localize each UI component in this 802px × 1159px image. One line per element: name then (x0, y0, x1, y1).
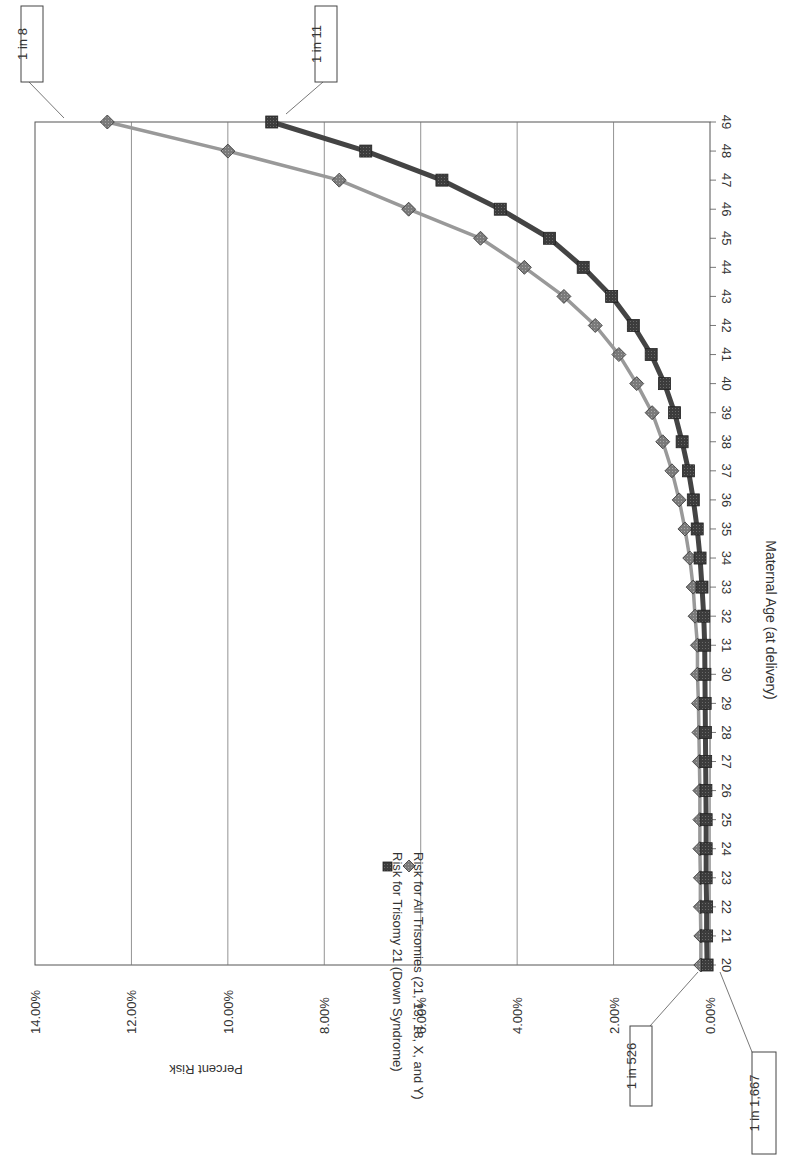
y-tick-label: 10.00% (221, 989, 236, 1034)
y-tick-label: 2.00% (607, 997, 622, 1034)
plot-border (35, 122, 710, 965)
square-marker-icon (699, 697, 711, 709)
diamond-marker-icon (645, 406, 659, 420)
x-tick-label: 35 (719, 522, 734, 536)
series-lines (100, 115, 713, 972)
x-tick-label: 20 (719, 958, 734, 972)
diamond-marker-icon (656, 435, 670, 449)
y-tick-label: 4.00% (510, 997, 525, 1034)
x-tick-label: 47 (719, 173, 734, 187)
annotation-label: 1 in 1,667 (747, 1074, 762, 1131)
legend-item-all-trisomies: Risk for All Trisomies (21, 13, 18, X, a… (403, 852, 426, 1100)
x-tick-label: 40 (719, 376, 734, 390)
y-axis-label: Percent Risk (169, 1062, 243, 1077)
x-tick-label: 25 (719, 812, 734, 826)
x-tick-label: 33 (719, 580, 734, 594)
x-tick-label: 29 (719, 696, 734, 710)
x-tick-label: 23 (719, 871, 734, 885)
square-marker-icon (700, 843, 712, 855)
x-tick-label: 28 (719, 725, 734, 739)
x-tick-label: 24 (719, 841, 734, 855)
square-marker-icon (699, 668, 711, 680)
y-axis-ticks: 0.00%2.00%4.00%6.00%8.00%10.00%12.00%14.… (28, 122, 718, 1034)
square-marker-icon (627, 319, 639, 331)
square-marker-icon (699, 639, 711, 651)
x-tick-label: 42 (719, 318, 734, 332)
legend: Risk for Trisomy 21 (Down Syndrome) Risk… (383, 852, 426, 1100)
trisomy21-line (272, 122, 707, 965)
leader-line (650, 972, 698, 1026)
x-tick-label: 37 (719, 464, 734, 478)
square-marker-icon (360, 145, 372, 157)
x-tick-label: 31 (719, 638, 734, 652)
x-tick-label: 22 (719, 900, 734, 914)
square-marker-icon (698, 610, 710, 622)
x-axis-ticks: 2021222324252627282930313233343536373839… (710, 115, 734, 972)
x-tick-label: 27 (719, 754, 734, 768)
annotation-callout: 1 in 1,667 (720, 972, 776, 1154)
x-tick-label: 36 (719, 493, 734, 507)
x-tick-label: 30 (719, 667, 734, 681)
chart: 0.00%2.00%4.00%6.00%8.00%10.00%12.00%14.… (0, 0, 802, 1159)
square-marker-icon (701, 959, 713, 971)
diamond-marker-icon (678, 522, 692, 536)
square-marker-icon (645, 349, 657, 361)
square-marker-icon (543, 232, 555, 244)
x-axis-label: Maternal Age (at delivery) (763, 540, 779, 700)
all-trisomies-line (107, 122, 701, 965)
square-marker-icon (436, 174, 448, 186)
square-marker-icon (699, 726, 711, 738)
square-marker-icon (700, 785, 712, 797)
x-tick-label: 32 (719, 609, 734, 623)
annotation-label: 1 in 526 (624, 1043, 639, 1089)
y-tick-label: 14.00% (28, 989, 43, 1034)
annotation-label: 1 in 8 (15, 28, 30, 60)
x-tick-label: 21 (719, 929, 734, 943)
square-marker-icon (694, 552, 706, 564)
square-marker-icon (682, 465, 694, 477)
x-tick-label: 48 (719, 144, 734, 158)
annotation-callout: 1 in 11 (286, 6, 337, 114)
x-tick-label: 26 (719, 783, 734, 797)
diamond-marker-icon (672, 493, 686, 507)
square-marker-icon (266, 116, 278, 128)
square-marker-icon (676, 436, 688, 448)
y-tick-label: 12.00% (124, 989, 139, 1034)
x-tick-label: 44 (719, 260, 734, 274)
square-marker-icon (701, 930, 713, 942)
legend-label-trisomy21: Risk for Trisomy 21 (Down Syndrome) (390, 852, 405, 1072)
legend-label-all-trisomies: Risk for All Trisomies (21, 13, 18, X, a… (411, 852, 426, 1100)
square-marker-icon (696, 581, 708, 593)
square-marker-icon (494, 203, 506, 215)
diamond-marker-icon (665, 464, 679, 478)
x-tick-label: 38 (719, 435, 734, 449)
y-tick-label: 8.00% (317, 997, 332, 1034)
diamond-marker-icon (100, 115, 114, 129)
square-marker-icon (700, 756, 712, 768)
diamond-marker-icon (221, 144, 235, 158)
leader-line (29, 82, 64, 118)
square-marker-icon (701, 901, 713, 913)
annotation-callout: 1 in 8 (15, 6, 64, 118)
x-tick-label: 45 (719, 231, 734, 245)
y-tick-label: 0.00% (703, 997, 718, 1034)
leader-line (286, 82, 323, 114)
leader-line (720, 972, 752, 1052)
legend-item-trisomy21: Risk for Trisomy 21 (Down Syndrome) (383, 852, 405, 1072)
annotation-callout: 1 in 526 (624, 972, 698, 1106)
square-marker-icon (687, 494, 699, 506)
diamond-marker-icon (402, 202, 416, 216)
x-tick-label: 46 (719, 202, 734, 216)
square-marker-icon (669, 407, 681, 419)
square-marker-icon (659, 378, 671, 390)
plot-area (35, 122, 710, 965)
x-tick-label: 49 (719, 115, 734, 129)
x-tick-label: 34 (719, 551, 734, 565)
square-marker-icon (606, 290, 618, 302)
square-marker-icon (577, 261, 589, 273)
x-tick-label: 41 (719, 347, 734, 361)
diamond-marker-icon (332, 173, 346, 187)
square-marker-icon (691, 523, 703, 535)
x-tick-label: 39 (719, 405, 734, 419)
square-marker-icon (700, 814, 712, 826)
